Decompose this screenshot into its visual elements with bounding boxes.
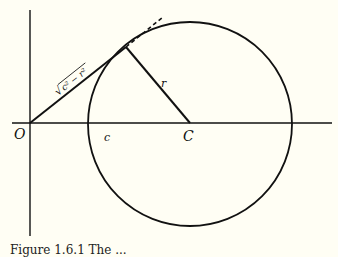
distance-label: c — [104, 131, 110, 144]
radius-line — [126, 47, 190, 123]
tangent-line — [30, 47, 126, 123]
origin-label: O — [14, 126, 26, 142]
center-label: C — [183, 128, 194, 144]
tangent-extension-dashed — [126, 17, 163, 47]
figure-caption: Figure 1.6.1 The ... — [10, 243, 127, 257]
tangent-length-label: √ c² − r² — [52, 62, 93, 98]
radius-label: r — [161, 77, 167, 90]
